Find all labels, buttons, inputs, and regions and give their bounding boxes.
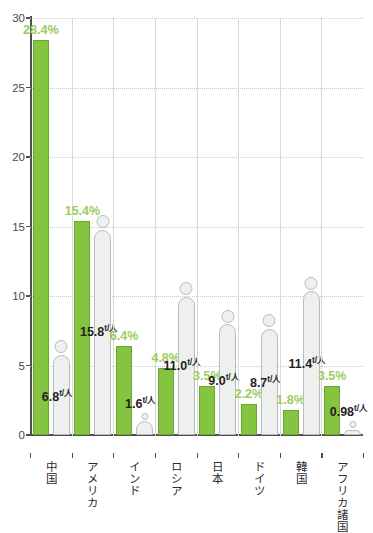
y-axis-tick-label: 0 (0, 429, 25, 441)
bar-value-label-percent: 28.4% (23, 23, 58, 37)
person-head (349, 421, 356, 428)
y-axis-tick-mark (26, 365, 30, 367)
person-value-label-per-capita: 0.98t/人 (330, 401, 368, 419)
person-head (180, 282, 193, 295)
bar-share-percent[interactable] (33, 40, 49, 435)
person-body (344, 430, 361, 435)
person-pictogram-per-capita[interactable] (136, 413, 153, 435)
y-axis-tick-label: 10 (0, 290, 25, 302)
bar-share-percent[interactable] (241, 404, 257, 435)
group-separator (72, 18, 73, 436)
group-separator (155, 18, 156, 436)
person-value-label-per-capita: 9.0t/人 (208, 370, 239, 388)
x-axis-category-label: ロシア (170, 461, 182, 497)
person-value-label-per-capita: 6.8t/人 (42, 386, 73, 404)
y-axis-tick-label: 5 (0, 360, 25, 372)
x-axis-tick (363, 453, 364, 458)
person-body (136, 421, 153, 435)
x-axis-category-label: 中国 (45, 461, 57, 485)
x-axis-tick (197, 453, 198, 458)
bar-value-label-percent: 3.5% (318, 369, 347, 383)
x-axis-tick (321, 453, 322, 458)
x-axis-tick (238, 453, 239, 458)
bar-value-label-percent: 1.8% (276, 393, 305, 407)
x-axis-tick (280, 453, 281, 458)
x-axis-tick (155, 453, 156, 458)
bar-share-percent[interactable] (116, 346, 132, 435)
bar-share-percent[interactable] (158, 368, 174, 435)
x-axis-category-label: 韓国 (295, 461, 307, 485)
group-separator (238, 18, 239, 436)
bar-share-percent[interactable] (283, 410, 299, 435)
y-axis-tick-mark (26, 87, 30, 89)
y-axis-tick-label: 25 (0, 82, 25, 94)
y-axis-tick-label: 30 (0, 12, 25, 24)
bar-share-percent[interactable] (199, 386, 215, 435)
bar-value-label-percent: 6.4% (110, 329, 139, 343)
plot-area: 05101520253028.4%6.8t/人中国15.4%15.8t/人アメリ… (30, 18, 363, 435)
person-head (221, 310, 234, 323)
person-value-label-per-capita: 8.7t/人 (250, 372, 281, 390)
x-axis-category-label: 日本 (211, 461, 223, 485)
group-separator (280, 18, 281, 436)
x-axis-category-label: アフリカ諸国 (336, 461, 348, 533)
y-axis-tick-mark (26, 226, 30, 228)
y-axis-tick-mark (26, 17, 30, 19)
person-value-label-per-capita: 11.4t/人 (288, 353, 325, 371)
x-axis-tick (30, 453, 31, 458)
y-axis-tick-mark (26, 156, 30, 158)
y-axis-tick-label: 20 (0, 151, 25, 163)
person-head (55, 340, 68, 353)
y-axis-tick-label: 15 (0, 221, 25, 233)
x-axis-category-label: ドイツ (253, 461, 265, 497)
y-axis-tick-mark (26, 434, 30, 436)
x-axis-tick (72, 453, 73, 458)
x-axis-category-label: アメリカ (86, 461, 98, 509)
y-axis-tick-mark (26, 295, 30, 297)
group-separator (113, 18, 114, 436)
x-axis-tick (113, 453, 114, 458)
person-head (96, 215, 109, 228)
person-value-label-per-capita: 1.6t/人 (125, 393, 156, 411)
person-head (263, 314, 276, 327)
person-head (141, 413, 148, 420)
person-pictogram-per-capita[interactable] (344, 421, 361, 435)
x-axis-category-label: インド (128, 461, 140, 497)
person-head (305, 277, 318, 290)
